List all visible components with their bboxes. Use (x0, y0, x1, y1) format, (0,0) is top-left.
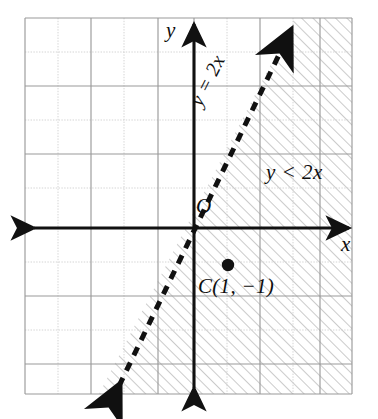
inequality-region-label: y < 2x (266, 162, 323, 183)
inequality-graph-figure: y x O y < 2x y = 2x C(1, −1) (0, 0, 378, 419)
origin-label: O (196, 196, 211, 217)
point-c-marker (222, 259, 234, 271)
x-axis-label: x (341, 234, 350, 255)
y-axis-label: y (166, 20, 175, 41)
point-c-label: C(1, −1) (198, 276, 274, 297)
coordinate-plane-svg (0, 0, 378, 419)
